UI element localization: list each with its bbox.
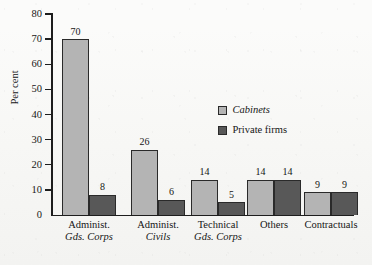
bar-cabinets: 26 <box>131 150 158 215</box>
bar-value-label: 9 <box>342 180 347 190</box>
bar-value-label: 14 <box>256 167 266 177</box>
category-label-line2: Gds. Corps <box>163 231 273 243</box>
y-tick-label-60: 60 <box>0 59 42 70</box>
bar-cabinets: 14 <box>191 180 218 215</box>
y-axis-line <box>51 13 53 216</box>
bar-private-firms: 8 <box>89 195 116 215</box>
bar-cabinets: 70 <box>62 39 89 215</box>
figure-caption-cropped <box>62 256 322 265</box>
y-tick-30 <box>45 139 51 140</box>
bar-group: 99 <box>304 14 358 215</box>
y-tick-20 <box>45 164 51 165</box>
y-tick-label-50: 50 <box>0 84 42 95</box>
bar-value-label: 70 <box>71 27 81 37</box>
y-tick-label-70: 70 <box>0 34 42 45</box>
bar-value-label: 5 <box>229 190 234 200</box>
y-tick-label-80: 80 <box>0 9 42 20</box>
bar-value-label: 8 <box>100 182 105 192</box>
bar-value-label: 6 <box>169 187 174 197</box>
y-tick-label-30: 30 <box>0 134 42 145</box>
bar-cabinets: 9 <box>304 192 331 215</box>
legend-item-cabinets: Cabinets <box>218 103 287 118</box>
category-label-line1: Contractuals <box>304 219 357 230</box>
legend-swatch-cabinets <box>218 106 227 115</box>
bar-private-firms: 14 <box>274 180 301 215</box>
bar-value-label: 14 <box>283 167 293 177</box>
y-tick-40 <box>45 114 51 115</box>
bar-group: 708 <box>62 14 116 215</box>
legend-swatch-private-firms <box>218 126 227 135</box>
bar-group: 266 <box>131 14 185 215</box>
y-tick-60 <box>45 64 51 65</box>
y-tick-10 <box>45 189 51 190</box>
bar-private-firms: 9 <box>331 192 358 215</box>
y-tick-label-40: 40 <box>0 109 42 120</box>
category-label: Contractuals <box>276 219 372 231</box>
legend-label-private-firms: Private firms <box>233 125 288 136</box>
bar-value-label: 14 <box>200 167 210 177</box>
bar-cabinets: 14 <box>247 180 274 215</box>
y-tick-label-20: 20 <box>0 160 42 171</box>
bar-private-firms: 5 <box>218 202 245 215</box>
y-tick-50 <box>45 89 51 90</box>
bar-value-label: 9 <box>315 180 320 190</box>
y-tick-80 <box>45 13 51 14</box>
legend-item-private-firms: Private firms <box>218 123 287 138</box>
chart-legend: Cabinets Private firms <box>218 103 287 143</box>
bar-private-firms: 6 <box>158 200 185 215</box>
y-tick-label-10: 10 <box>0 185 42 196</box>
bar-value-label: 26 <box>140 137 150 147</box>
grouped-bar-chart: Per cent 80706050403020100 7082661451414… <box>0 0 372 265</box>
legend-label-cabinets: Cabinets <box>233 105 270 116</box>
y-tick-70 <box>45 38 51 39</box>
